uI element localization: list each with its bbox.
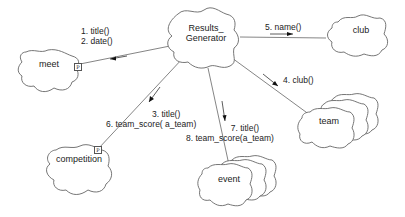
message-to-meet: 1. title() 2. date() [81,26,113,46]
message-to-event: 7. title() 8. team_score(a_team) [186,123,274,143]
link-generator-team [232,58,310,115]
message-6-team-score: 6. team_score( a_team) [106,119,196,129]
results-generator-label: Results_ Generator [178,23,234,43]
meet-cloud [18,50,78,92]
arrow-to-event [222,101,227,121]
message-8-team-score: 8. team_score(a_team) [186,133,274,143]
message-to-team: 4. club() [283,75,314,85]
link-generator-competition [98,58,183,149]
competition-label: competition [54,154,104,164]
link-generator-meet [80,46,170,64]
meet-persistent-adornment: P [74,63,82,71]
message-3-title: 3. title() [106,109,196,119]
competition-persistent-adornment: P [94,146,102,154]
event-label: event [211,174,247,184]
message-7-title: 7. title() [186,123,274,133]
arrow-to-competition [149,87,160,102]
club-label: club [346,25,376,35]
results-generator-label-line1: Results_ [178,23,234,33]
arrow-to-club [270,32,293,36]
arrow-to-team [263,74,278,86]
message-1-title: 1. title() [81,26,113,36]
message-2-date: 2. date() [81,36,113,46]
club-cloud [328,15,388,56]
message-to-club: 5. name() [265,22,301,32]
team-label: team [312,116,346,126]
link-generator-club [240,37,326,38]
meet-label: meet [34,59,64,69]
message-to-competition: 3. title() 6. team_score( a_team) [106,109,196,129]
results-generator-label-line2: Generator [178,33,234,43]
